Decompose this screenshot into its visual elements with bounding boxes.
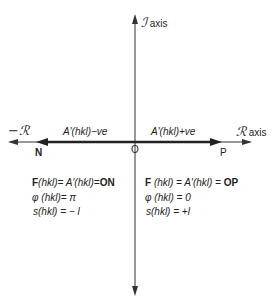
- left-s-equation: s(hkl) = − l: [33, 207, 80, 217]
- negative-r-label: −ℛ: [8, 124, 29, 137]
- vertical-axis-symbol: ℐ: [141, 15, 147, 30]
- horizontal-axis-arrow-left: [8, 139, 18, 145]
- horizontal-axis-arrow-right: [242, 139, 252, 145]
- right-s-equation: s(hkl) = +l: [146, 207, 190, 217]
- segment-positive-label: A′(hkl)+ve: [151, 127, 195, 137]
- vertical-axis-arrow-up: [132, 14, 138, 24]
- vector-op-arrow: [210, 138, 222, 146]
- op-label: OP: [224, 177, 238, 188]
- vector-on-arrow: [36, 138, 48, 146]
- left-phi-equation: φ (hkl)= π: [32, 193, 76, 203]
- point-p: P: [220, 148, 227, 158]
- horizontal-axis-symbol: ℛ: [236, 124, 246, 139]
- vertical-axis-label: ℐ axis: [141, 16, 168, 29]
- f-middle: (hkl)= A′(hkl)=: [38, 177, 100, 188]
- f-middle: (hkl) = A′(hkl) =: [151, 177, 224, 188]
- vertical-axis-text: axis: [150, 18, 168, 29]
- left-f-equation: F(hkl)= A′(hkl)=ON: [32, 178, 115, 188]
- segment-negative-label: A′(hkl)−ve: [63, 127, 107, 137]
- right-f-equation: F (hkl) = A′(hkl) = OP: [145, 178, 238, 188]
- right-phi-equation: φ (hkl) = 0: [145, 193, 191, 203]
- horizontal-axis-label: ℛ axis: [236, 125, 267, 138]
- vertical-axis-arrow-down: [132, 286, 138, 296]
- on-label: ON: [100, 177, 115, 188]
- horizontal-axis-text: axis: [249, 127, 267, 138]
- point-n: N: [35, 148, 42, 158]
- origin-o: O: [131, 145, 139, 155]
